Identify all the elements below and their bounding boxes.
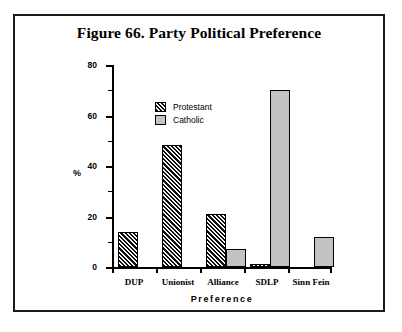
y-axis-label: % xyxy=(73,168,81,178)
y-tick-label-60: 60 xyxy=(88,111,97,121)
bar-alliance-protestant[interactable] xyxy=(206,214,226,267)
x-tick-3 xyxy=(244,267,246,273)
chart-legend: Protestant Catholic xyxy=(155,102,212,128)
bar-unionist-protestant[interactable] xyxy=(162,145,182,268)
x-tick-5 xyxy=(330,267,332,273)
bar-sdlp-protestant[interactable] xyxy=(250,264,270,267)
chart-title: Figure 66. Party Political Preference xyxy=(15,24,383,42)
legend-label-protestant: Protestant xyxy=(173,102,212,112)
bar-sdlp-catholic[interactable] xyxy=(270,90,290,267)
x-category-label-dup: DUP xyxy=(125,277,144,287)
x-tick-2 xyxy=(200,267,202,273)
legend-label-catholic: Catholic xyxy=(173,115,204,125)
x-category-label-sinnfein: Sinn Fein xyxy=(293,277,330,287)
solid-gray-swatch-icon xyxy=(155,115,166,125)
y-tick-label-20: 20 xyxy=(88,212,97,222)
y-tick-label-40: 40 xyxy=(88,161,97,171)
x-category-label-alliance: Alliance xyxy=(207,277,239,287)
y-tick-label-80: 80 xyxy=(88,60,97,70)
x-tick-1 xyxy=(156,267,158,273)
figure-frame: Figure 66. Party Political Preference % … xyxy=(13,14,385,312)
hatch-diagonal-swatch-icon xyxy=(155,102,166,112)
bar-alliance-catholic[interactable] xyxy=(226,249,246,267)
x-category-label-sdlp: SDLP xyxy=(255,277,278,287)
bars-layer xyxy=(112,65,332,267)
legend-item-catholic[interactable]: Catholic xyxy=(155,115,212,125)
x-axis-label: Preference xyxy=(112,294,332,304)
plot-area: 80 60 40 20 0 xyxy=(112,65,332,267)
x-category-label-unionist: Unionist xyxy=(162,277,195,287)
bar-sinnfein-catholic[interactable] xyxy=(314,237,334,267)
bar-dup-protestant[interactable] xyxy=(118,232,138,267)
x-tick-4 xyxy=(288,267,290,273)
y-tick-label-0: 0 xyxy=(92,262,97,272)
x-axis-line xyxy=(112,267,332,269)
x-tick-0 xyxy=(112,267,114,273)
legend-item-protestant[interactable]: Protestant xyxy=(155,102,212,112)
